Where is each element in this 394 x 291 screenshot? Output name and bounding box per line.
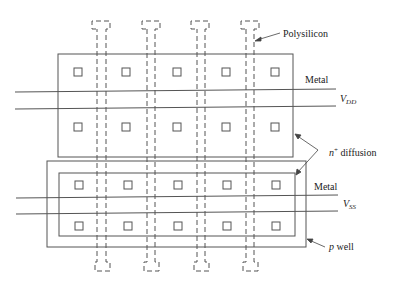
- contact-icon: [272, 181, 280, 189]
- contact-icon: [173, 123, 181, 131]
- contact-icon: [271, 68, 279, 76]
- contact-icon: [122, 68, 130, 76]
- layout-diagram: Polysilicon Metal VDD n+ diffusion Metal…: [0, 0, 394, 291]
- metal-top-label: Metal: [305, 74, 329, 85]
- polysilicon-strip-1: [92, 21, 110, 271]
- metal-vdd-line-top: [15, 89, 336, 92]
- contact-icon: [74, 123, 82, 131]
- contact-icon: [222, 123, 230, 131]
- contact-icon: [122, 123, 130, 131]
- contact-icon: [74, 68, 82, 76]
- polysilicon-strip-2: [142, 21, 160, 271]
- contact-icon: [174, 222, 182, 230]
- contact-icon: [223, 222, 231, 230]
- p-well-label: p well: [328, 241, 354, 252]
- polysilicon-strip-4: [241, 21, 259, 271]
- metal-bottom-label: Metal: [314, 181, 338, 192]
- metal-vss-line-top: [16, 195, 338, 198]
- contact-icon: [173, 68, 181, 76]
- contact-icon: [124, 181, 132, 189]
- metal-vdd-line-bottom: [15, 106, 336, 109]
- vdd-label: VDD: [340, 93, 356, 106]
- polysilicon-strip-3: [191, 21, 209, 271]
- vss-label: VSS: [343, 198, 357, 211]
- arrowhead-icon: [307, 239, 313, 243]
- polysilicon-label: Polysilicon: [283, 28, 328, 39]
- contact-icon: [271, 123, 279, 131]
- p-well-region: [47, 161, 306, 247]
- metal-vss-line-bottom: [16, 211, 338, 214]
- contact-icon: [222, 68, 230, 76]
- contact-icon: [223, 181, 231, 189]
- contact-icon: [124, 222, 132, 230]
- arrowhead-icon: [255, 37, 261, 41]
- contact-icon: [174, 181, 182, 189]
- contact-icon: [272, 222, 280, 230]
- contact-icon: [75, 222, 83, 230]
- contacts: [74, 68, 280, 230]
- contact-icon: [75, 181, 83, 189]
- n-diffusion-label: n+ diffusion: [329, 146, 376, 158]
